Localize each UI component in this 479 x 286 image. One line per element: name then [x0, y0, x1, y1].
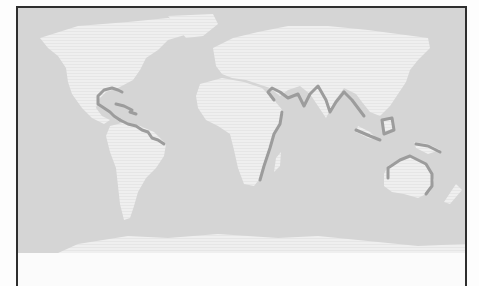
world-map [18, 8, 465, 253]
world-map-graphic [18, 8, 465, 253]
